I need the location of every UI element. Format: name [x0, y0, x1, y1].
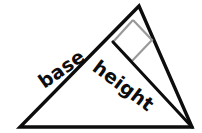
triangle-diagram: base height [0, 0, 202, 133]
